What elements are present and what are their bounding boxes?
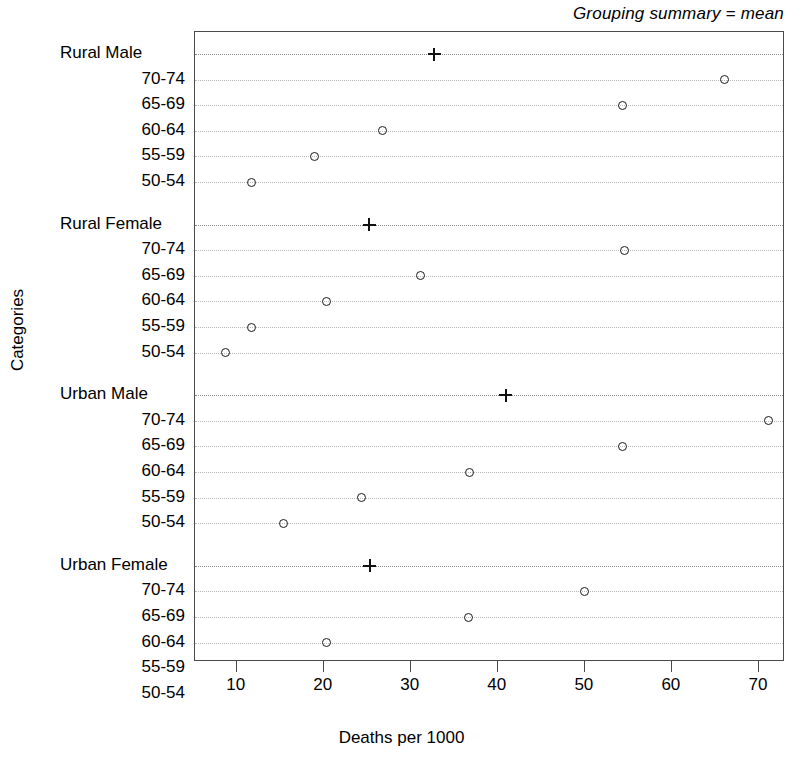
x-axis-tick	[236, 661, 237, 672]
y-axis-category-label: 70-74	[142, 411, 185, 428]
gridline	[195, 591, 783, 592]
data-point-marker	[720, 75, 729, 84]
x-axis-tick-label: 30	[400, 676, 419, 693]
gridline	[195, 301, 783, 302]
y-axis-category-label: 60-64	[142, 291, 185, 308]
gridline	[195, 327, 783, 328]
gridline	[195, 472, 783, 473]
y-axis-category-label: 65-69	[142, 607, 185, 624]
y-axis-category-label: 65-69	[142, 95, 185, 112]
x-axis-tick	[584, 661, 585, 672]
y-axis-title: Categories	[8, 250, 28, 410]
x-axis-tick-label: 10	[226, 676, 245, 693]
gridline	[195, 156, 783, 157]
gridline	[195, 643, 783, 644]
x-axis-tick	[758, 661, 759, 672]
gridline	[195, 353, 783, 354]
y-axis-category-label: 55-59	[142, 146, 185, 163]
gridline	[195, 182, 783, 183]
data-point-marker	[357, 493, 366, 502]
summary-mean-marker	[363, 218, 376, 231]
x-axis-tick	[671, 661, 672, 672]
y-axis-category-label: 55-59	[142, 488, 185, 505]
y-axis-category-label: 50-54	[142, 513, 185, 530]
gridline	[195, 250, 783, 251]
gridline	[195, 80, 783, 81]
x-axis-tick	[323, 661, 324, 672]
gridline	[195, 498, 783, 499]
y-axis-category-label: 55-59	[142, 317, 185, 334]
y-axis-category-label: 70-74	[142, 240, 185, 257]
y-axis-group-label: Urban Male	[60, 385, 148, 402]
gridline	[195, 276, 783, 277]
gridline	[195, 105, 783, 106]
data-point-marker	[279, 519, 288, 528]
data-point-marker	[322, 638, 331, 647]
data-point-marker	[465, 468, 474, 477]
y-axis-category-label: 70-74	[142, 70, 185, 87]
data-point-marker	[620, 246, 629, 255]
data-point-marker	[310, 152, 319, 161]
y-axis-category-label: 50-54	[142, 684, 185, 701]
data-point-marker	[416, 271, 425, 280]
y-axis-category-label: 65-69	[142, 436, 185, 453]
plot-panel	[194, 31, 784, 661]
y-axis-category-label: 55-59	[142, 658, 185, 675]
y-axis-group-label: Rural Male	[60, 44, 142, 61]
x-axis-tick	[410, 661, 411, 672]
gridline	[195, 54, 783, 55]
x-axis-tick-label: 60	[661, 676, 680, 693]
data-point-marker	[322, 297, 331, 306]
x-axis-title: Deaths per 1000	[0, 728, 803, 748]
gridline	[195, 421, 783, 422]
summary-mean-marker	[428, 48, 441, 61]
dot-plot-figure: Grouping summary = mean Rural Male70-746…	[0, 0, 803, 763]
gridline	[195, 617, 783, 618]
grouping-summary-strip-label: Grouping summary = mean	[194, 4, 784, 24]
x-axis-tick-label: 50	[574, 676, 593, 693]
data-point-marker	[464, 613, 473, 622]
summary-mean-marker	[363, 559, 376, 572]
data-point-marker	[580, 587, 589, 596]
y-axis-category-label: 65-69	[142, 266, 185, 283]
gridline	[195, 225, 783, 226]
y-axis-category-label: 50-54	[142, 172, 185, 189]
x-axis-tick-label: 20	[313, 676, 332, 693]
summary-mean-marker	[499, 389, 512, 402]
y-axis-category-label: 50-54	[142, 343, 185, 360]
y-axis-category-label: 60-64	[142, 633, 185, 650]
gridline	[195, 395, 783, 396]
data-point-marker	[247, 178, 256, 187]
data-point-marker	[618, 101, 627, 110]
y-axis-group-label: Rural Female	[60, 215, 162, 232]
data-point-marker	[618, 442, 627, 451]
gridline	[195, 446, 783, 447]
data-point-marker	[247, 323, 256, 332]
y-axis-category-label: 60-64	[142, 462, 185, 479]
data-point-marker	[378, 126, 387, 135]
x-axis-tick	[497, 661, 498, 672]
y-axis-category-label: 60-64	[142, 121, 185, 138]
y-axis-group-label: Urban Female	[60, 556, 168, 573]
data-point-marker	[221, 348, 230, 357]
y-axis-category-label: 70-74	[142, 581, 185, 598]
gridline	[195, 131, 783, 132]
x-axis-tick-label: 40	[487, 676, 506, 693]
x-axis-tick-label: 70	[748, 676, 767, 693]
data-point-marker	[764, 416, 773, 425]
gridline	[195, 566, 783, 567]
